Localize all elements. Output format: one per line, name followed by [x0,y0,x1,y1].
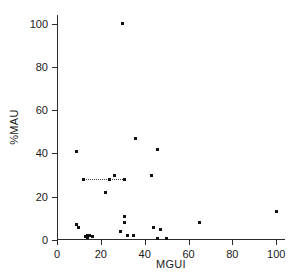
y-tick-100: 100 [52,24,57,25]
scatter-plot-figure: 020406080100 020406080100 %MAU MGUI [0,0,292,280]
data-point [108,178,111,181]
data-point [119,230,122,233]
y-tick-label-20: 20 [36,191,48,202]
y-tick-80: 80 [52,67,57,68]
data-point [132,234,135,237]
y-axis-title: %MAU [8,109,20,144]
data-point [123,215,126,218]
data-point [121,22,124,25]
y-tick-label-60: 60 [36,105,48,116]
x-tick-100: 100 [276,240,277,245]
data-point [156,148,159,151]
y-tick-label-40: 40 [36,148,48,159]
x-tick-60: 60 [189,240,190,245]
data-point [156,237,159,240]
data-point [134,137,137,140]
x-tick-40: 40 [145,240,146,245]
data-point [91,235,94,238]
x-tick-20: 20 [101,240,102,245]
plot-area: 020406080100 020406080100 [57,15,285,240]
data-point [77,226,80,229]
data-point [126,234,129,237]
y-tick-20: 20 [52,197,57,198]
data-point [104,191,107,194]
y-tick-label-100: 100 [30,18,48,29]
y-tick-label-80: 80 [36,61,48,72]
y-tick-label-0: 0 [42,235,48,246]
data-point [159,228,162,231]
x-tick-80: 80 [232,240,233,245]
data-point [198,221,201,224]
y-tick-40: 40 [52,153,57,154]
reference-line [83,179,125,180]
data-point [75,150,78,153]
data-point [123,178,126,181]
x-axis-spine [57,239,285,240]
x-tick-0: 0 [57,240,58,245]
data-point [113,174,116,177]
y-axis-spine [57,15,58,240]
y-tick-60: 60 [52,110,57,111]
data-point [150,174,153,177]
data-point [82,178,85,181]
data-point [152,226,155,229]
data-point [275,210,278,213]
data-point [165,237,168,240]
data-point [123,221,126,224]
x-axis-title: MGUI [57,258,285,270]
